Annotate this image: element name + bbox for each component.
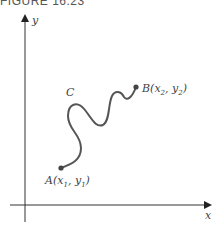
curve-c xyxy=(61,87,136,168)
point-b xyxy=(133,84,138,89)
point-a-label: A(x1, y1) xyxy=(44,174,90,189)
curve-label: C xyxy=(66,86,75,99)
x-axis-label: x xyxy=(205,209,212,222)
y-axis-label: y xyxy=(31,14,39,27)
point-b-label: B(x2, y2) xyxy=(141,82,187,97)
diagram: y x C B(x2, y2) A(x1, y1) xyxy=(0,0,220,235)
point-a xyxy=(58,165,63,170)
